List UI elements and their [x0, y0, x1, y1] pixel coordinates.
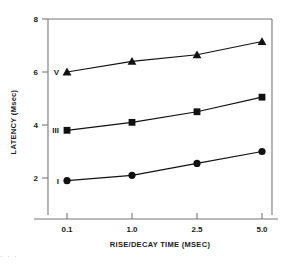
series-inline-labels: VIIII — [52, 68, 59, 186]
y-axis-tick-labels: 2468 — [34, 15, 39, 183]
x-tick-label-1.0: 1.0 — [126, 225, 138, 234]
latency-vs-rise-decay-time-chart: 2468 0.11.02.55.0 VIIII RISE/DECAY TIME … — [0, 0, 288, 266]
x-tick-label-0.1: 0.1 — [61, 225, 73, 234]
series-lines-group — [67, 42, 262, 181]
series-line-V — [67, 42, 262, 72]
data-point-III-0.1 — [64, 127, 71, 134]
x-axis-ticks — [67, 213, 262, 219]
x-axis-tick-labels: 0.11.02.55.0 — [61, 225, 268, 234]
chart-canvas: 2468 0.11.02.55.0 VIIII RISE/DECAY TIME … — [0, 0, 288, 266]
y-axis-ticks — [42, 19, 48, 178]
y-tick-label-6: 6 — [34, 68, 39, 77]
data-point-III-1.0 — [129, 119, 136, 126]
y-tick-label-4: 4 — [34, 121, 39, 130]
series-line-I — [67, 152, 262, 181]
data-point-I-2.5 — [193, 160, 200, 167]
data-point-III-5.0 — [259, 94, 266, 101]
series-label-III: III — [52, 126, 59, 135]
data-point-I-0.1 — [63, 177, 70, 184]
y-axis-title: LATENCY (Msec) — [9, 89, 18, 154]
series-label-V: V — [54, 68, 60, 77]
data-point-V-5.0 — [258, 37, 267, 45]
data-point-III-2.5 — [194, 108, 201, 115]
x-tick-label-5.0: 5.0 — [256, 225, 268, 234]
y-tick-label-8: 8 — [34, 15, 39, 24]
page-caption-fragment: · · · — [0, 252, 288, 266]
x-tick-label-2.5: 2.5 — [191, 225, 203, 234]
series-label-I: I — [57, 177, 59, 186]
data-point-I-5.0 — [258, 148, 265, 155]
x-axis-title: RISE/DECAY TIME (MSEC) — [110, 240, 211, 249]
y-tick-label-2: 2 — [34, 174, 39, 183]
series-line-III — [67, 97, 262, 130]
data-point-I-1.0 — [128, 172, 135, 179]
series-markers-group — [63, 37, 267, 184]
